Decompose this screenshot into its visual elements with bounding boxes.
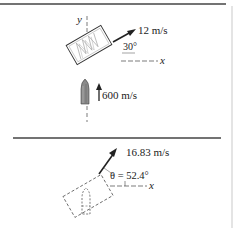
wooden-block (66, 25, 112, 64)
x-axis-label-lower: x (149, 180, 154, 191)
diagram-svg (0, 0, 234, 228)
bullet-velocity-label: 600 m/s (102, 90, 137, 101)
x-axis-label-upper: x (160, 55, 165, 66)
combined-velocity-label: 16.83 m/s (126, 147, 169, 158)
diagram-canvas: y 12 m/s 30° x 600 m/s 16.83 m/s θ = 52.… (0, 0, 234, 228)
embedded-block-dashed (63, 175, 113, 218)
block-velocity-label: 12 m/s (138, 25, 168, 36)
y-axis-label: y (77, 14, 82, 25)
bullet (81, 79, 89, 104)
embedded-bullet-dashed (82, 188, 90, 214)
angle-theta-label: θ = 52.4° (110, 171, 149, 182)
block-angle-label: 30° (123, 42, 137, 52)
